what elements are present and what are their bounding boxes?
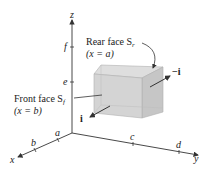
z-tick-label-e: e: [63, 76, 68, 87]
front-face-condition: (x = b): [14, 105, 43, 117]
x-tick-label-a: a: [55, 127, 60, 138]
x-tick-label-b: b: [31, 137, 36, 148]
x-axis: [18, 133, 72, 157]
z-axis-label: z: [69, 9, 74, 20]
z-tick-label-f: f: [64, 41, 68, 52]
diagram-canvas: z y x f e a b c d i −i Rear face Sr (x =…: [0, 0, 208, 177]
vector-i-label: i: [80, 113, 83, 124]
y-axis-label: y: [193, 153, 199, 164]
x-axis-label: x: [9, 154, 15, 165]
rear-face-condition: (x = a): [86, 48, 115, 60]
y-tick-label-d: d: [176, 139, 182, 150]
vector-neg-i-label: −i: [172, 66, 181, 77]
y-tick-label-c: c: [130, 131, 135, 142]
rear-face-pointer: [142, 43, 155, 68]
box-solid: [94, 65, 163, 118]
